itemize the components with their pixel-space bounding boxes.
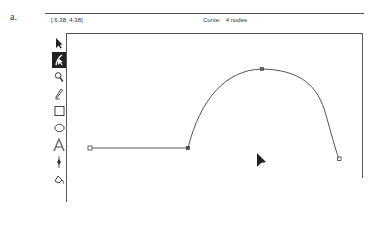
shape-tool-button[interactable] xyxy=(52,52,66,68)
pick-tool-button[interactable] xyxy=(52,35,66,51)
ellipse-tool-button[interactable] xyxy=(52,120,66,136)
fill-tool-button[interactable] xyxy=(52,171,66,187)
ellipse-icon xyxy=(54,122,65,134)
pen-nib-icon xyxy=(54,155,64,169)
magnifier-icon xyxy=(54,71,64,83)
curve-segment-arc-right[interactable] xyxy=(262,69,339,159)
paint-bucket-icon xyxy=(53,173,65,185)
curve-node-top[interactable] xyxy=(261,68,264,71)
shape-node-icon xyxy=(54,54,64,66)
zoom-tool-button[interactable] xyxy=(52,69,66,85)
curve-node-start[interactable] xyxy=(88,146,92,150)
text-a-icon xyxy=(53,138,65,152)
toolbox xyxy=(52,33,67,202)
rectangle-tool-button[interactable] xyxy=(52,103,66,119)
pencil-tool-button[interactable] xyxy=(52,86,66,102)
curve-segment-arc-left[interactable] xyxy=(188,69,262,148)
outline-pen-tool-button[interactable] xyxy=(52,154,66,170)
curve-node-cusp[interactable] xyxy=(187,147,190,150)
pencil-icon xyxy=(54,88,64,100)
curve-node-end[interactable] xyxy=(338,157,342,161)
rectangle-icon xyxy=(54,105,65,117)
text-tool-button[interactable] xyxy=(52,137,66,153)
mouse-pointer-icon xyxy=(257,153,266,167)
arrow-pointer-icon xyxy=(54,37,64,49)
